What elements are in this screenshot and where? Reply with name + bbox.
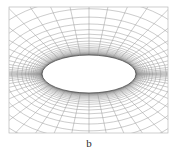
figure-container: b bbox=[0, 0, 178, 159]
figure-caption-label: b bbox=[0, 136, 178, 150]
ellipse-body bbox=[42, 55, 136, 93]
